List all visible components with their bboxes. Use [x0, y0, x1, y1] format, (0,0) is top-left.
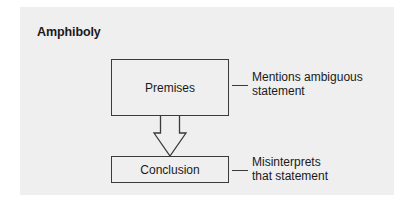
conclusion-note-line1: Misinterprets — [252, 155, 328, 169]
conclusion-connector-line — [232, 170, 248, 171]
premises-label: Premises — [145, 81, 195, 95]
conclusion-note-line2: that statement — [252, 169, 328, 183]
conclusion-label: Conclusion — [140, 163, 199, 177]
conclusion-note: Misinterprets that statement — [252, 155, 328, 183]
diagram-title: Amphiboly — [37, 25, 101, 39]
down-arrow-icon — [150, 115, 190, 157]
premises-connector-line — [232, 85, 248, 86]
premises-box: Premises — [111, 59, 229, 116]
premises-note: Mentions ambiguous statement — [252, 70, 363, 98]
conclusion-box: Conclusion — [111, 156, 229, 183]
premises-note-line2: statement — [252, 84, 363, 98]
premises-note-line1: Mentions ambiguous — [252, 70, 363, 84]
